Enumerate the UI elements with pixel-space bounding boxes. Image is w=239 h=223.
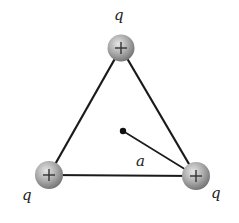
edge-bottom bbox=[49, 175, 196, 176]
charge-bottom-left bbox=[35, 161, 63, 189]
center-point bbox=[120, 128, 126, 134]
charge-label-bottom-right: q bbox=[211, 184, 221, 202]
edge-right bbox=[121, 48, 196, 176]
charge-label-top: q bbox=[114, 6, 124, 24]
edge-left bbox=[49, 48, 121, 175]
charge-bottom-right bbox=[182, 162, 210, 190]
charge-label-bottom-left: q bbox=[22, 186, 32, 204]
charge-top bbox=[108, 35, 135, 62]
distance-label: a bbox=[136, 152, 145, 170]
triangle-edges bbox=[49, 48, 196, 176]
triangle-charge-diagram: q q q a bbox=[0, 0, 239, 223]
